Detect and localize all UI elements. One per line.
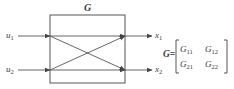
matrix-entry-g12: G12	[205, 44, 218, 55]
block-diagram: G u1 u2 x1 x2 G= G11 G12 G21	[0, 0, 234, 89]
block-g-box	[50, 15, 125, 83]
matrix-entry-g21: G21	[180, 59, 193, 70]
block-g-label: G	[84, 2, 92, 13]
transfer-matrix: G= G11 G12 G21 G22	[163, 40, 227, 73]
input-u1-label: u1	[6, 30, 14, 41]
matrix-left-bracket	[176, 40, 179, 73]
matrix-lhs: G=	[163, 49, 175, 59]
matrix-entry-g22: G22	[205, 59, 218, 70]
input-u2-label: u2	[6, 64, 14, 75]
output-x1-label: x1	[154, 30, 162, 41]
matrix-right-bracket	[224, 40, 227, 73]
output-x2-label: x2	[154, 64, 162, 75]
matrix-entry-g11: G11	[180, 44, 193, 55]
